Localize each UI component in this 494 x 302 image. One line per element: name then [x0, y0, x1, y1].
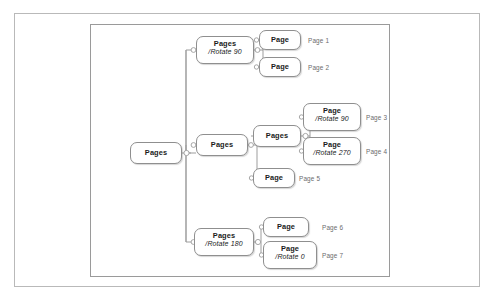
node-pages-sub[interactable]: Pages — [253, 125, 301, 147]
node-label: Page — [271, 63, 289, 71]
node-sublabel: /Rotate 90 — [304, 115, 360, 123]
node-pages-mid[interactable]: Pages — [196, 134, 248, 156]
node-sublabel: /Rotate 0 — [264, 253, 316, 261]
node-label: Page — [277, 223, 295, 231]
node-label: Pages — [145, 149, 167, 157]
node-page-6[interactable]: Page — [263, 217, 309, 237]
node-page-1[interactable]: Page — [259, 30, 301, 50]
node-label: Page — [264, 245, 316, 253]
node-page-5[interactable]: Page — [253, 168, 295, 188]
node-label: Page — [304, 107, 360, 115]
node-sublabel: /Rotate 270 — [304, 149, 360, 157]
diagram-canvas: Pages Pages /Rotate 90 Pages Pages /Rota… — [0, 0, 494, 302]
node-page-rotate-90[interactable]: Page /Rotate 90 — [303, 103, 361, 131]
node-root[interactable]: Pages — [130, 142, 182, 164]
node-pages-rotate-180[interactable]: Pages /Rotate 180 — [194, 228, 254, 256]
node-label: Page — [265, 174, 283, 182]
caption-page-6: Page 6 — [322, 224, 343, 231]
caption-page-7: Page 7 — [322, 252, 343, 259]
node-label: Page — [271, 36, 289, 44]
node-sublabel: /Rotate 90 — [197, 48, 253, 56]
node-label: Pages — [195, 232, 253, 240]
node-page-rotate-0[interactable]: Page /Rotate 0 — [263, 241, 317, 269]
node-page-rotate-270[interactable]: Page /Rotate 270 — [303, 137, 361, 165]
caption-page-2: Page 2 — [308, 64, 329, 71]
node-page-2[interactable]: Page — [259, 57, 301, 77]
node-sublabel: /Rotate 180 — [195, 240, 253, 248]
node-label: Page — [304, 141, 360, 149]
node-pages-rotate-90[interactable]: Pages /Rotate 90 — [196, 36, 254, 64]
node-label: Pages — [211, 141, 233, 149]
node-label: Pages — [266, 132, 288, 140]
caption-page-3: Page 3 — [366, 114, 387, 121]
caption-page-4: Page 4 — [366, 148, 387, 155]
caption-page-1: Page 1 — [308, 37, 329, 44]
caption-page-5: Page 5 — [299, 175, 320, 182]
node-label: Pages — [197, 40, 253, 48]
